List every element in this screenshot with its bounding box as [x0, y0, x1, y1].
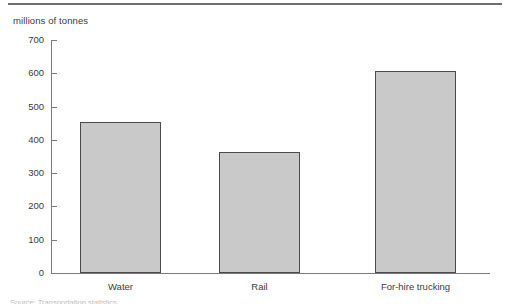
- y-axis-tick-label: 700: [14, 35, 44, 45]
- bar-for-hire-trucking: [375, 71, 456, 273]
- y-axis-tick-mark: [52, 40, 57, 41]
- category-label: Rail: [194, 281, 325, 292]
- category-label: Water: [55, 281, 186, 292]
- y-axis-tick-label: 100: [14, 235, 44, 245]
- y-axis-tick-mark: [52, 206, 57, 207]
- y-axis-tick-mark: [52, 240, 57, 241]
- category-label: For-hire trucking: [350, 281, 481, 292]
- bar-chart-figure: millions of tonnes 700600500400300200100…: [0, 0, 510, 304]
- y-axis-tick-label: 500: [14, 102, 44, 112]
- y-axis-tick-label: 400: [14, 135, 44, 145]
- bar-water: [80, 122, 161, 273]
- y-axis-tick-mark: [52, 107, 57, 108]
- chart-footnote: Source: Transportation statistics.: [10, 298, 119, 304]
- bar-rail: [219, 152, 300, 273]
- x-axis-line: [51, 273, 490, 274]
- y-axis-tick-mark: [52, 173, 57, 174]
- y-axis-tick-label: 300: [14, 168, 44, 178]
- y-axis-tick-mark: [52, 73, 57, 74]
- y-axis-tick-label: 200: [14, 201, 44, 211]
- y-axis-tick-label: 600: [14, 68, 44, 78]
- y-axis-tick-mark: [52, 140, 57, 141]
- y-axis-tick-mark: [52, 273, 57, 274]
- plot-area: 7006005004003002001000WaterRailFor-hire …: [0, 0, 510, 304]
- y-axis-tick-label: 0: [14, 268, 44, 278]
